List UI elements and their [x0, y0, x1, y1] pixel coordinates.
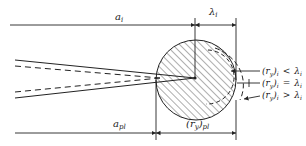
- condition-less: (ry)i<λi: [262, 66, 302, 78]
- crack-diagram: ai λi apl (ry)pl (ry)i<λi (ry)i=λi (ry)i…: [0, 0, 306, 146]
- label-a-pl: apl: [113, 118, 126, 131]
- condition-greater: (ry)i>λi: [262, 90, 302, 102]
- label-lambda-i: λi: [208, 6, 218, 19]
- condition-equal: (ry)i=λi: [262, 78, 302, 90]
- label-a-i: ai: [115, 11, 123, 24]
